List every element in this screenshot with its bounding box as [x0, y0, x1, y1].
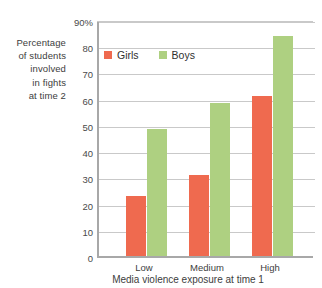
x-axis-label: Media violence exposure at time 1	[60, 274, 316, 285]
y-axis-tick-label: 10	[65, 226, 93, 237]
y-axis-tick-label: 30	[65, 174, 93, 185]
bar-medium-boys	[210, 103, 230, 256]
legend-entry-girls[interactable]: Girls	[104, 49, 139, 61]
y-axis-label: Percentageof studentsinvolvedin fightsat…	[0, 36, 66, 102]
legend-label: Boys	[172, 49, 195, 61]
y-axis-label-line: Percentage	[0, 36, 66, 49]
y-axis-label-line: at time 2	[0, 89, 66, 102]
x-axis-tick-label: High	[260, 262, 280, 273]
y-axis-tick-label: 50	[65, 121, 93, 132]
y-axis-label-line: of students	[0, 49, 66, 62]
x-axis-tick-label: Low	[135, 262, 152, 273]
x-axis-tick-label: Medium	[190, 262, 224, 273]
legend-swatch-icon	[104, 51, 112, 59]
y-axis-tick-labels: 0102030405060708090%	[62, 22, 93, 258]
chart-legend: GirlsBoys	[104, 49, 195, 61]
y-axis-tick-label: 0	[65, 253, 93, 264]
y-axis-tick-label: 90%	[65, 17, 93, 28]
bar-low-boys	[147, 129, 167, 256]
y-axis-label-line: in fights	[0, 76, 66, 89]
bar-chart-figure: Percentageof studentsinvolvedin fightsat…	[0, 0, 322, 288]
bar-high-girls	[252, 96, 272, 256]
y-axis-tick-label: 70	[65, 69, 93, 80]
bar-medium-girls	[189, 175, 209, 256]
y-axis-tick-label: 60	[65, 95, 93, 106]
y-axis-tick-label: 20	[65, 200, 93, 211]
y-axis-tick-label: 40	[65, 148, 93, 159]
y-axis-label-line: involved	[0, 62, 66, 75]
legend-label: Girls	[117, 49, 139, 61]
bar-low-girls	[126, 196, 146, 256]
y-axis-tick-label: 80	[65, 43, 93, 54]
legend-swatch-icon	[159, 51, 167, 59]
bar-high-boys	[273, 36, 293, 256]
legend-entry-boys[interactable]: Boys	[159, 49, 195, 61]
